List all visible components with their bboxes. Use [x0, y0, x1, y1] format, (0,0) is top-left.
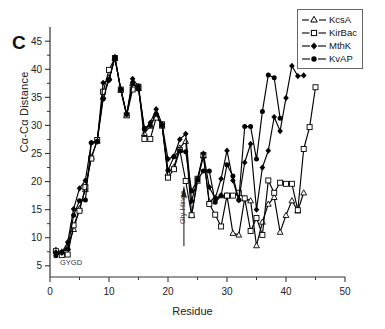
- annotation-gygd: GYGD: [60, 258, 82, 267]
- x-tick-label: 30: [221, 286, 233, 297]
- series-kirbac: [53, 56, 318, 258]
- data-point: [136, 86, 141, 91]
- y-tick-label: 25: [31, 148, 43, 159]
- data-point: [301, 72, 307, 78]
- data-point: [301, 190, 307, 195]
- data-point: [166, 168, 171, 173]
- data-point: [313, 85, 318, 90]
- data-point: [77, 208, 82, 213]
- data-point: [277, 128, 283, 134]
- data-point: [242, 196, 247, 201]
- x-tick-label: 0: [47, 286, 53, 297]
- open-triangle-icon: [301, 14, 327, 26]
- data-point: [142, 126, 147, 131]
- data-point: [154, 112, 159, 117]
- data-point: [77, 198, 82, 203]
- data-point: [177, 148, 182, 153]
- data-point: [59, 250, 64, 255]
- y-tick-label: 45: [31, 36, 43, 47]
- y-axis-label: Cα-Cα Distance: [18, 42, 30, 182]
- legend-label-mthk: MthK: [327, 40, 351, 51]
- annotation-gly-hinge: Gly-Hinge: [178, 178, 187, 224]
- data-point: [289, 181, 294, 186]
- data-point: [148, 136, 153, 141]
- data-point: [166, 175, 171, 180]
- data-point: [277, 229, 283, 234]
- data-point: [189, 189, 194, 194]
- data-point: [242, 159, 248, 165]
- x-tick-label: 10: [103, 286, 115, 297]
- y-tick-label: 40: [31, 64, 43, 75]
- legend-item-kirbac[interactable]: KirBac: [301, 26, 357, 39]
- data-point: [230, 193, 235, 198]
- data-point: [130, 80, 135, 85]
- data-point: [260, 164, 266, 170]
- data-point: [224, 148, 230, 154]
- data-point: [160, 123, 165, 128]
- data-point: [218, 176, 224, 182]
- x-tick-label: 40: [280, 286, 292, 297]
- data-point: [295, 208, 300, 213]
- y-tick-label: 20: [31, 176, 43, 187]
- data-point: [254, 243, 260, 248]
- data-point: [225, 162, 230, 167]
- data-point: [266, 148, 272, 154]
- data-point: [213, 200, 218, 205]
- data-point: [219, 193, 224, 198]
- data-point: [95, 139, 100, 144]
- y-tick-label: 10: [31, 232, 43, 243]
- data-point: [183, 149, 188, 154]
- data-point: [248, 141, 254, 147]
- data-point: [230, 173, 235, 178]
- data-point: [213, 212, 218, 217]
- data-point: [307, 125, 312, 130]
- filled-diamond-icon: [301, 40, 327, 52]
- data-point: [236, 198, 241, 203]
- data-point: [201, 168, 206, 173]
- data-point: [289, 63, 295, 69]
- data-point: [289, 198, 295, 203]
- data-point: [254, 207, 260, 213]
- data-point: [153, 106, 159, 112]
- data-point: [242, 124, 247, 129]
- data-point: [272, 75, 277, 80]
- y-tick-label: 30: [31, 120, 43, 131]
- data-point: [112, 56, 117, 61]
- data-point: [254, 216, 259, 221]
- legend-item-mthk[interactable]: MthK: [301, 39, 357, 52]
- data-point: [284, 181, 289, 186]
- data-point: [118, 87, 123, 92]
- legend-label-kvap: KvAP: [327, 53, 353, 64]
- data-point: [171, 154, 176, 159]
- data-point: [230, 230, 236, 235]
- legend-item-kvap[interactable]: KvAP: [301, 52, 357, 65]
- chart-legend: KcsA KirBac MthK KvAP: [297, 9, 363, 69]
- data-point: [207, 168, 212, 173]
- data-point: [65, 252, 70, 257]
- data-point: [171, 167, 176, 172]
- figure-panel-c: C Cα-Cα Distance Residue 510152025303540…: [0, 0, 385, 329]
- data-point: [65, 246, 70, 251]
- legend-label-kirbac: KirBac: [327, 27, 357, 38]
- data-point: [272, 190, 277, 195]
- data-point: [301, 147, 306, 152]
- legend-item-kcsa[interactable]: KcsA: [301, 13, 357, 26]
- x-axis-label: Residue: [0, 305, 385, 317]
- y-tick-label: 15: [31, 204, 43, 215]
- data-point: [148, 123, 153, 128]
- data-point: [189, 213, 194, 218]
- data-point: [248, 228, 253, 233]
- open-square-icon: [301, 27, 327, 39]
- data-point: [124, 112, 129, 117]
- filled-circle-icon: [301, 53, 327, 65]
- data-point: [207, 202, 212, 207]
- data-point: [283, 212, 289, 217]
- data-point: [248, 124, 253, 129]
- data-point: [260, 109, 265, 114]
- data-point: [266, 178, 271, 183]
- data-point: [89, 140, 94, 145]
- data-point: [142, 136, 147, 141]
- data-point: [101, 97, 106, 102]
- data-point: [195, 177, 200, 182]
- data-point: [260, 232, 265, 237]
